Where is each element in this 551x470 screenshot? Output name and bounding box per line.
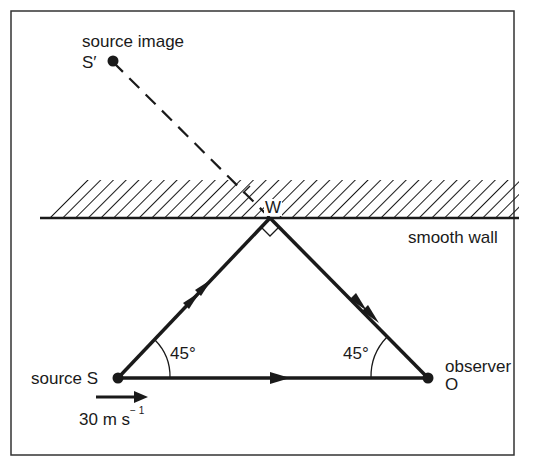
right-angle-mark xyxy=(261,227,279,236)
observer-point xyxy=(423,373,434,384)
speed-value: 30 m s xyxy=(79,410,130,429)
observer-label: observer xyxy=(445,358,511,375)
arrow-head-icon xyxy=(270,372,290,384)
angle-label-source: 45° xyxy=(170,345,196,362)
double-arrow-icon xyxy=(350,293,379,323)
double-arrow-icon xyxy=(183,279,212,309)
source-image-point-label: S′ xyxy=(82,54,97,71)
observer-point-label: O xyxy=(445,376,458,393)
source-label: source S xyxy=(31,370,98,387)
wall-point-label: W xyxy=(264,199,282,216)
angle-label-observer: 45° xyxy=(343,345,369,362)
speed-exponent: − 1 xyxy=(130,405,144,416)
source-point xyxy=(113,373,124,384)
angle-arc-at-source xyxy=(155,340,170,378)
speed-label: 30 m s− 1 xyxy=(79,410,144,428)
velocity-arrow-icon xyxy=(96,391,148,403)
smooth-wall-label: smooth wall xyxy=(408,229,498,246)
source-image-point xyxy=(108,56,119,67)
angle-arc-at-observer xyxy=(371,337,387,378)
source-image-label: source image xyxy=(82,33,184,50)
